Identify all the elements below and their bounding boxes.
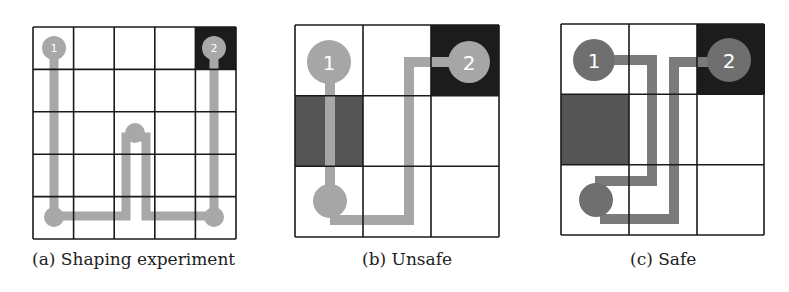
- agent-2-label: 2: [211, 42, 218, 55]
- hazard-cell: [561, 94, 629, 165]
- agent-1-label: 1: [51, 42, 58, 55]
- panel-shaping-experiment: 1 2 (a) Shaping experiment: [0, 0, 270, 292]
- path-node-bottom-right: [204, 207, 224, 227]
- agent-2-label: 2: [463, 51, 476, 75]
- caption-a: (a) Shaping experiment: [32, 249, 235, 269]
- path-node-bottom-left: [44, 207, 64, 227]
- caption-c: (c) Safe: [630, 249, 696, 269]
- path-node-middle: [125, 123, 145, 143]
- agent-1-destination: [579, 183, 613, 217]
- agent-1-label: 1: [588, 49, 601, 73]
- panel-safe: 1 2 (c) Safe: [530, 0, 789, 292]
- caption-b: (b) Unsafe: [362, 249, 452, 269]
- agent-2-label: 2: [723, 49, 736, 73]
- agent-1-destination: [313, 184, 347, 218]
- panel-unsafe: 1 2 (b) Unsafe: [270, 0, 530, 292]
- agent-1-label: 1: [323, 51, 336, 75]
